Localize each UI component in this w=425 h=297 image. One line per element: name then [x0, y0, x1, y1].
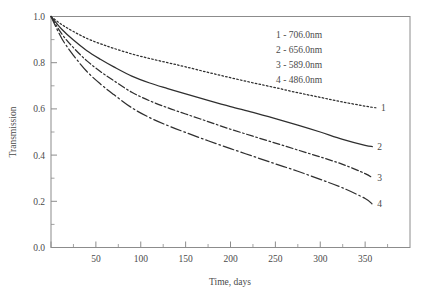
curve-end-label-1: 1: [381, 103, 386, 113]
y-tick-label: 1.0: [33, 12, 45, 22]
chart-figure: 50100150200250300350 0.00.20.40.60.81.0 …: [0, 0, 425, 297]
y-axis-tick-labels: 0.00.20.40.60.81.0: [33, 12, 45, 253]
y-tick-label: 0.0: [33, 243, 45, 253]
y-axis-ticks: [51, 17, 57, 248]
x-tick-label: 250: [268, 254, 283, 264]
x-tick-label: 100: [134, 254, 149, 264]
curve-end-label-2: 2: [377, 142, 382, 152]
x-tick-label: 350: [358, 254, 373, 264]
data-curves: [51, 17, 376, 205]
y-axis-title: Transmission: [8, 106, 18, 157]
x-axis-tick-labels: 50100150200250300350: [91, 254, 372, 264]
legend-entry-1: 1 - 706.0nm: [276, 30, 323, 40]
curve-end-labels: 1234: [377, 103, 386, 209]
y-tick-label: 0.2: [33, 197, 45, 207]
legend-entry-2: 2 - 656.0nm: [276, 45, 323, 55]
curve-series-2: [51, 17, 372, 147]
x-axis-ticks: [51, 242, 388, 248]
x-tick-label: 150: [179, 254, 194, 264]
x-tick-label: 300: [313, 254, 328, 264]
curve-end-label-4: 4: [377, 199, 382, 209]
legend: 1 - 706.0nm 2 - 656.0nm 3 - 589.0nm 4 - …: [276, 30, 323, 85]
x-tick-label: 200: [223, 254, 238, 264]
curve-end-label-3: 3: [377, 173, 382, 183]
plot-frame: [51, 17, 410, 248]
x-tick-label: 50: [91, 254, 101, 264]
curve-series-1: [51, 17, 376, 108]
curve-series-3: [51, 17, 372, 178]
curve-series-4: [51, 17, 372, 205]
transmission-vs-time-plot: 50100150200250300350 0.00.20.40.60.81.0 …: [0, 0, 425, 297]
legend-entry-3: 3 - 589.0nm: [276, 60, 323, 70]
x-axis-title: Time, days: [209, 277, 251, 287]
y-tick-label: 0.4: [33, 151, 45, 161]
y-tick-label: 0.6: [33, 104, 45, 114]
legend-entry-4: 4 - 486.0nm: [276, 75, 323, 85]
y-tick-label: 0.8: [33, 58, 45, 68]
